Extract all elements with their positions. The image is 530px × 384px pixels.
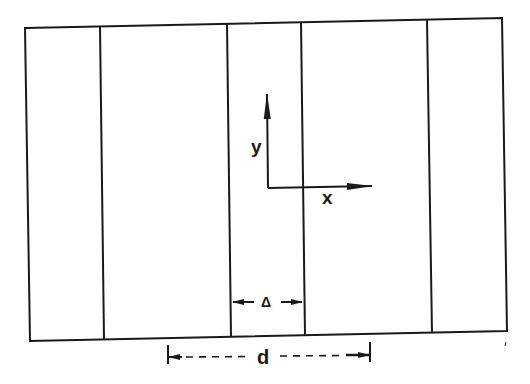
x-axis-label: x xyxy=(322,187,333,208)
strip-divider-3 xyxy=(301,22,305,336)
strip-dividers xyxy=(100,20,432,340)
y-axis-arrow-icon xyxy=(267,94,268,188)
d-label: d xyxy=(257,346,269,368)
coordinate-axes: y x xyxy=(251,94,372,208)
delta-dimension: Δ xyxy=(233,294,302,310)
y-axis-label: y xyxy=(251,136,262,157)
d-left-dashes xyxy=(186,357,251,358)
scan-mark xyxy=(505,342,506,346)
x-axis-arrow-icon xyxy=(268,186,372,188)
strip-divider-2 xyxy=(227,24,231,337)
strip-divider-1 xyxy=(100,27,104,340)
d-right-dashes xyxy=(280,356,343,357)
outer-frame xyxy=(25,18,507,341)
d-dimension: d xyxy=(168,342,370,368)
strip-divider-4 xyxy=(427,20,432,333)
delta-label: Δ xyxy=(261,294,271,310)
strip-geometry-diagram: y x Δ d xyxy=(0,0,530,384)
